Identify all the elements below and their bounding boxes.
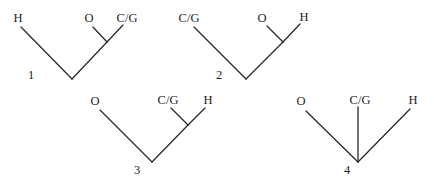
tree-3-number: 3 [134, 163, 140, 177]
tree-1-edge-o [93, 27, 107, 42]
tree-1-leaf-h: H [13, 11, 22, 25]
tree-1-edge-cg [107, 25, 123, 42]
tree-2-leaf-cg: C/G [179, 11, 200, 25]
tree-4-edge-h [358, 109, 410, 162]
tree-1-leaf-cg: C/G [117, 11, 138, 25]
tree-2-edge-h [283, 24, 300, 42]
tree-4: O C/G H 4 [296, 93, 417, 177]
tree-1-edge-stem [72, 42, 107, 79]
tree-2-leaf-o: O [257, 11, 266, 25]
tree-2-leaf-h: H [299, 10, 308, 24]
tree-3-edge-cg [171, 108, 188, 125]
tree-1-number: 1 [28, 68, 34, 82]
tree-3: O C/G H 3 [90, 93, 212, 177]
tree-topology-diagram: H O C/G 1 C/G O H 2 O C/G H 3 O C/G H 4 [0, 0, 434, 182]
tree-3-edge-o [100, 110, 152, 162]
tree-3-edge-h [188, 108, 205, 125]
tree-3-edge-stem [152, 125, 188, 162]
tree-2-edge-o [267, 26, 283, 42]
tree-4-leaf-cg: C/G [350, 93, 371, 107]
tree-4-leaf-o: O [296, 94, 305, 108]
tree-4-leaf-h: H [408, 93, 417, 107]
tree-1-leaf-o: O [84, 11, 93, 25]
tree-2-number: 2 [216, 68, 222, 82]
tree-3-leaf-h: H [203, 93, 212, 107]
tree-3-leaf-cg: C/G [158, 93, 179, 107]
tree-1: H O C/G 1 [13, 11, 137, 82]
tree-2: C/G O H 2 [179, 10, 309, 82]
tree-4-edge-o [306, 111, 358, 162]
tree-3-leaf-o: O [90, 94, 99, 108]
tree-4-number: 4 [344, 163, 351, 177]
tree-2-edge-stem [246, 42, 283, 79]
